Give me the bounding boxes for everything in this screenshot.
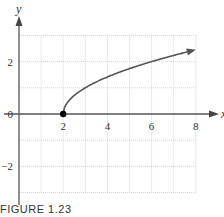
curve-series [60, 49, 196, 118]
function-graph: xy 2468−202 [0, 0, 224, 217]
x-tick-label: 6 [149, 120, 155, 132]
x-axis-label: x [220, 107, 224, 121]
y-axis-label: y [15, 2, 22, 16]
y-axis-arrow-icon [16, 16, 23, 26]
y-tick-label: 0 [8, 108, 14, 120]
y-tick-label: −2 [1, 160, 13, 172]
x-tick-label: 8 [193, 120, 199, 132]
start-point-marker [60, 111, 66, 117]
x-tick-label: 2 [60, 120, 66, 132]
x-tick-label: 4 [105, 120, 111, 132]
x-axis-arrow-icon [209, 111, 219, 118]
axes: xy [4, 2, 224, 205]
y-tick-label: 2 [8, 56, 14, 68]
curve-arrow-icon [186, 49, 196, 56]
figure-caption: FIGURE 1.23 [0, 203, 72, 215]
